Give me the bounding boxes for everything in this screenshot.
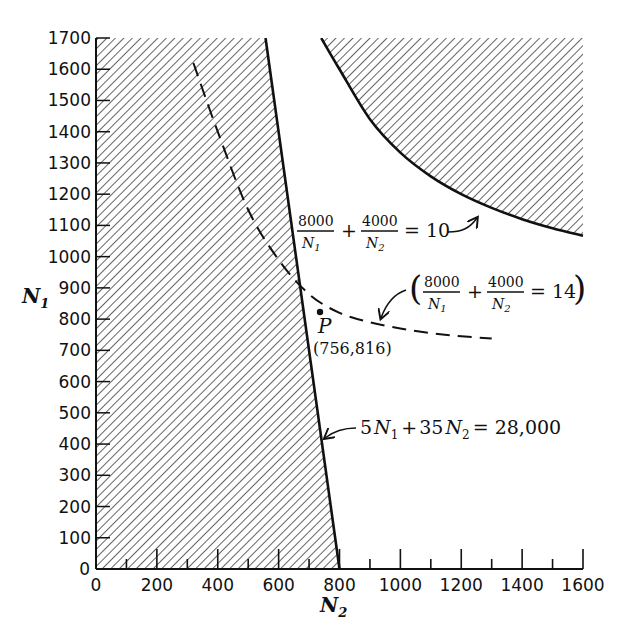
svg-text:N1: N1	[301, 235, 321, 253]
x-tick-label: 1400	[500, 575, 543, 595]
y-tick-label: 600	[59, 372, 91, 392]
svg-text:8000: 8000	[424, 274, 460, 290]
annotation-curve-14: ( 8000 N1 + 4000 N2 = 14 )	[381, 268, 586, 318]
svg-text:5N1+35N2= 28,000: 5N1+35N2= 28,000	[360, 416, 561, 442]
y-tick-label: 0	[79, 559, 90, 579]
hatched-region-upper-right	[321, 38, 583, 236]
annotation-curve-10: 8000 N1 + 4000 N2 = 10	[297, 213, 477, 253]
svg-text:4000: 4000	[488, 274, 524, 290]
svg-text:8000: 8000	[298, 213, 334, 229]
y-tick-label: 1600	[48, 59, 91, 79]
svg-text:N1: N1	[427, 296, 447, 314]
svg-text:N2: N2	[491, 296, 511, 314]
y-tick-label: 1300	[48, 153, 91, 173]
y-tick-label: 300	[59, 465, 91, 485]
point-p-coords: (756,816)	[313, 339, 392, 358]
svg-text:N2: N2	[365, 235, 385, 253]
point-p-label: P	[317, 314, 332, 338]
svg-text:= 14: = 14	[530, 280, 576, 302]
y-tick-label: 1000	[48, 247, 91, 267]
svg-text:+: +	[341, 219, 357, 241]
y-tick-label: 1100	[48, 215, 91, 235]
y-tick-label: 200	[59, 497, 91, 517]
x-tick-label: 1600	[561, 575, 604, 595]
chart: 02004006008001000120014001600 0100200300…	[0, 0, 620, 634]
svg-text:(: (	[409, 268, 422, 308]
x-tick-label: 0	[91, 575, 102, 595]
y-tick-label: 100	[59, 528, 91, 548]
svg-text:): )	[573, 268, 586, 308]
y-tick-label: 1200	[48, 184, 91, 204]
y-tick-label: 700	[59, 340, 91, 360]
y-tick-label: 900	[59, 278, 91, 298]
y-axis-title: N1	[21, 284, 49, 311]
x-tick-label: 600	[262, 575, 294, 595]
x-tick-label: 400	[202, 575, 234, 595]
x-tick-label: 1000	[379, 575, 422, 595]
svg-text:4000: 4000	[362, 213, 398, 229]
y-tick-label: 800	[59, 309, 91, 329]
y-tick-label: 1700	[48, 28, 91, 48]
x-tick-label: 1200	[440, 575, 483, 595]
y-tick-label: 500	[59, 403, 91, 423]
svg-text:+: +	[467, 280, 483, 302]
x-axis-title: N2	[319, 593, 347, 620]
y-tick-label: 1500	[48, 90, 91, 110]
y-tick-label: 1400	[48, 122, 91, 142]
x-tick-label: 800	[323, 575, 355, 595]
annotation-linear-constraint: 5N1+35N2= 28,000	[325, 416, 561, 442]
x-tick-label: 200	[141, 575, 173, 595]
svg-text:= 10: = 10	[404, 219, 450, 241]
y-tick-label: 400	[59, 434, 91, 454]
